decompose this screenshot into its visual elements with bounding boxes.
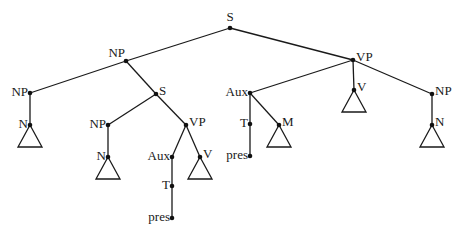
node-dot-icon [198, 155, 203, 160]
node-label-t_rel: T [162, 178, 170, 191]
node-dot-icon [28, 123, 33, 128]
node-dot-icon [106, 123, 111, 128]
node-dot-icon [170, 155, 175, 160]
node-label-np_subj: NP [108, 46, 125, 59]
tree-edge [250, 60, 353, 93]
node-label-n_rel: N [97, 149, 106, 162]
tree-edge [186, 125, 200, 157]
node-label-t_main: T [240, 116, 248, 129]
node-label-pres_main: pres [226, 148, 248, 161]
tree-edge [230, 28, 353, 60]
node-dot-icon [228, 26, 233, 31]
node-label-aux_main: Aux [226, 85, 248, 98]
node-dot-icon [170, 216, 175, 221]
tree-edge [172, 125, 186, 157]
node-dot-icon [430, 92, 435, 97]
node-label-aux_rel: Aux [148, 149, 170, 162]
node-dot-icon [430, 123, 435, 128]
tree-edge [353, 60, 354, 90]
node-label-np_obj: NP [435, 84, 452, 97]
tree-edge [156, 94, 186, 125]
node-dot-icon [106, 155, 111, 160]
tree-edge [108, 94, 156, 125]
tree-edge [250, 93, 279, 125]
node-dot-icon [248, 154, 253, 159]
tree-edge [126, 61, 156, 94]
node-dot-icon [170, 184, 175, 189]
node-label-np_left: NP [11, 85, 28, 98]
node-label-n_left: N [19, 117, 28, 130]
node-label-np_rel: NP [89, 117, 106, 130]
node-dot-icon [28, 91, 33, 96]
node-label-pres_rel: pres [148, 210, 170, 223]
tree-edge [30, 61, 126, 93]
node-dot-icon [248, 122, 253, 127]
node-label-s_rel: S [159, 84, 166, 97]
node-dot-icon [184, 123, 189, 128]
node-label-v_rel: V [203, 147, 212, 160]
node-label-vp_main: VP [356, 50, 373, 63]
node-dot-icon [154, 92, 159, 97]
node-label-n_obj: N [435, 115, 444, 128]
node-label-s_root: S [226, 10, 233, 23]
node-dot-icon [277, 123, 282, 128]
node-label-vp_rel: VP [189, 115, 206, 128]
node-dot-icon [248, 91, 253, 96]
syntax-tree [0, 0, 461, 231]
tree-edge [126, 28, 230, 61]
node-label-v_main: V [357, 80, 366, 93]
node-label-m_main: M [282, 115, 294, 128]
tree-triangles [18, 90, 444, 179]
node-dot-icon [351, 58, 356, 63]
node-dot-icon [352, 88, 357, 93]
